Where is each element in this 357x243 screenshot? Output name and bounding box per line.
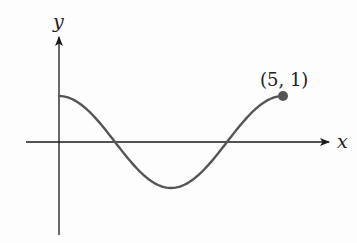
y-axis-label: y — [52, 10, 64, 32]
graph-svg: x y (5, 1) — [0, 0, 357, 243]
endpoint-marker — [278, 91, 288, 101]
graph-figure: x y (5, 1) — [0, 0, 357, 243]
endpoint-label: (5, 1) — [260, 69, 308, 90]
x-axis-label: x — [337, 130, 348, 152]
